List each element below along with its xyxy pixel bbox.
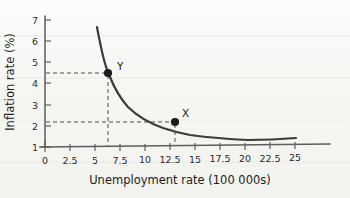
data-point-x-label: X [182,107,189,119]
data-point-y-label: Y [116,60,124,72]
x-tick-label: 20 [239,153,251,164]
x-tick-label: 25 [289,152,301,163]
x-tick-label: 17.5 [209,153,230,164]
x-tick-label: 5 [92,155,98,166]
y-tick-label: 5 [32,57,38,68]
y-tick-label: 7 [32,15,38,26]
x-axis [41,141,330,152]
x-tick-label: 7.5 [112,155,127,166]
x-tick-labels: 0 2.5 5 7.5 10 12.5 15 17.5 20 22.5 25 [42,152,301,166]
x-axis-title: Unemployment rate (100 000s) [89,173,271,187]
y-tick-label: 3 [32,100,38,111]
y-axis-title: Inflation rate (%) [3,33,17,131]
paper-ruling [0,36,350,162]
x-tick-label: 22.5 [259,153,280,164]
chart-canvas: 7 6 5 4 3 2 1 0 2.5 5 7.5 10 12.5 15 17.… [0,0,350,198]
x-tick-label: 2.5 [62,155,77,166]
y-tick-label: 2 [32,121,38,132]
x-tick-label: 12.5 [159,154,180,165]
phillips-curve-chart: 7 6 5 4 3 2 1 0 2.5 5 7.5 10 12.5 15 17.… [0,0,350,198]
x-tick-label: 10 [139,154,151,165]
y-tick-label: 6 [32,36,38,47]
y-tick-label: 4 [32,78,38,89]
guide-lines-point-y [46,73,108,146]
phillips-curve-line [97,27,296,140]
x-tick-label: 15 [189,154,201,165]
data-point-x[interactable]: X [171,107,189,126]
x-tick-label: 0 [42,155,48,166]
y-tick-label: 1 [32,142,38,153]
y-tick-labels: 7 6 5 4 3 2 1 [32,15,38,153]
